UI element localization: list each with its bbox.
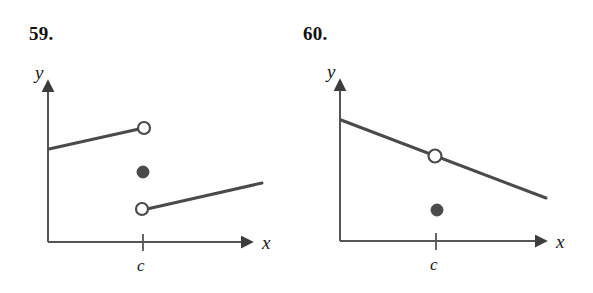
figure-59: 59. y x c: [0, 0, 300, 293]
filled-dot-value-at-c-59: [137, 166, 149, 178]
exercise-figures-page: 59. y x c: [0, 0, 593, 293]
figure-60: 60. y x c: [293, 0, 593, 293]
open-circle-removed-point-60: [429, 150, 442, 163]
x-tick-label-c-59: c: [137, 256, 145, 275]
plot-60: y x c: [293, 0, 593, 293]
open-circle-left-limit-59: [138, 122, 150, 134]
y-axis-label-60: y: [325, 61, 336, 82]
left-branch-segment-59: [49, 129, 139, 149]
filled-dot-value-at-c-60: [431, 204, 443, 216]
decreasing-line-segment-60: [341, 120, 546, 198]
plot-59: y x c: [0, 0, 300, 293]
x-tick-label-c-60: c: [430, 255, 438, 274]
right-branch-segment-59: [147, 183, 262, 209]
open-circle-right-limit-59: [136, 203, 148, 215]
y-axis-label-59: y: [33, 62, 44, 83]
x-axis-label-60: x: [555, 231, 565, 252]
x-axis-label-59: x: [261, 232, 271, 253]
